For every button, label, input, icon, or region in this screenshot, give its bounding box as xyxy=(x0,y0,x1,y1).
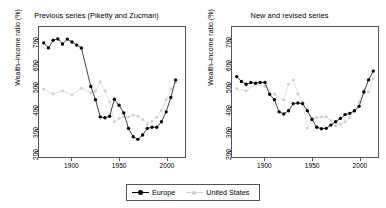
data-point xyxy=(51,39,54,42)
legend-entry-united-states: United States xyxy=(186,185,249,200)
y-tick-label: 400 xyxy=(32,105,39,116)
data-point xyxy=(99,81,102,84)
x-tick-label: 1950 xyxy=(107,162,131,169)
data-point xyxy=(141,118,144,121)
data-point xyxy=(94,98,97,101)
chart-panel-previous-series: Previous series (Piketty and Zucman) Wea… xyxy=(0,0,193,175)
x-tick-label: 2000 xyxy=(348,162,372,169)
data-point xyxy=(61,42,64,45)
x-tick-mark xyxy=(167,158,168,161)
y-tick-label: 600 xyxy=(32,60,39,71)
data-point xyxy=(292,102,295,105)
data-point xyxy=(56,37,59,40)
data-point xyxy=(367,91,370,94)
data-point xyxy=(155,116,158,119)
x-tick-label: 2000 xyxy=(155,162,179,169)
data-point xyxy=(348,112,351,115)
data-point xyxy=(42,41,45,44)
x-tick-mark xyxy=(312,158,313,161)
data-point xyxy=(372,69,375,72)
data-point xyxy=(287,83,290,86)
data-point xyxy=(306,127,309,130)
data-point xyxy=(367,78,370,81)
data-point xyxy=(99,115,102,118)
data-point xyxy=(315,126,318,129)
data-point xyxy=(160,120,163,123)
plot-svg-left xyxy=(39,27,185,157)
data-point xyxy=(94,90,97,93)
panel-title-right: New and revised series xyxy=(193,11,386,20)
data-point xyxy=(47,46,50,49)
series-line-united-states xyxy=(237,79,374,129)
y-tick-label: 300 xyxy=(32,127,39,138)
plot-area-left xyxy=(38,26,186,158)
data-point xyxy=(70,40,73,43)
data-point xyxy=(273,98,276,101)
plot-area-right xyxy=(231,26,379,158)
data-point xyxy=(362,90,365,93)
data-point xyxy=(254,82,257,85)
data-point xyxy=(113,120,116,123)
y-tick-label: 700 xyxy=(32,37,39,48)
y-tick-label: 600 xyxy=(225,60,232,71)
data-point xyxy=(282,98,285,101)
data-point xyxy=(127,115,130,118)
y-tick-label: 700 xyxy=(225,37,232,48)
data-point xyxy=(150,126,153,129)
x-tick-label: 1900 xyxy=(252,162,276,169)
figure-root: Previous series (Piketty and Zucman) Wea… xyxy=(0,0,386,208)
plot-svg-right xyxy=(232,27,378,157)
data-point xyxy=(339,123,342,126)
y-tick-label: 500 xyxy=(225,82,232,93)
y-axis-label-right: Wealth–income ratio (%) xyxy=(207,3,214,93)
data-point xyxy=(132,114,135,117)
data-point xyxy=(103,116,106,119)
x-tick-label: 1900 xyxy=(59,162,83,169)
data-point xyxy=(89,92,92,95)
data-point xyxy=(164,110,167,113)
data-point xyxy=(169,96,172,99)
data-point xyxy=(113,98,116,101)
data-point xyxy=(89,85,92,88)
data-point xyxy=(249,81,252,84)
data-point xyxy=(174,78,177,81)
data-point xyxy=(320,115,323,118)
y-tick-label: 300 xyxy=(225,127,232,138)
data-point xyxy=(372,77,375,80)
legend-marker-united-states-icon xyxy=(186,188,203,197)
data-point xyxy=(240,80,243,83)
data-point xyxy=(136,115,139,118)
legend: Europe United States xyxy=(126,184,260,201)
data-point xyxy=(320,127,323,130)
data-point xyxy=(344,120,347,123)
data-point xyxy=(146,122,149,125)
data-point xyxy=(155,126,158,129)
data-point xyxy=(127,127,130,130)
series-line-europe xyxy=(237,71,374,129)
data-point xyxy=(61,89,64,92)
data-point xyxy=(296,93,299,96)
data-point xyxy=(108,115,111,118)
data-point xyxy=(103,89,106,92)
data-point xyxy=(136,138,139,141)
data-point xyxy=(169,88,172,91)
data-point xyxy=(325,115,328,118)
data-point xyxy=(325,127,328,130)
data-point xyxy=(244,83,247,86)
data-point xyxy=(122,111,125,114)
data-point xyxy=(306,109,309,112)
data-point xyxy=(348,116,351,119)
data-point xyxy=(273,93,276,96)
data-point xyxy=(132,135,135,138)
data-point xyxy=(259,81,262,84)
y-tick-label: 400 xyxy=(225,105,232,116)
data-point xyxy=(334,120,337,123)
data-point xyxy=(301,102,304,105)
data-point xyxy=(80,46,83,49)
data-point xyxy=(146,127,149,130)
x-tick-label: 1950 xyxy=(300,162,324,169)
data-point xyxy=(292,78,295,81)
x-tick-mark xyxy=(119,158,120,161)
x-tick-mark xyxy=(360,158,361,161)
legend-label-united-states: United States xyxy=(206,188,249,197)
